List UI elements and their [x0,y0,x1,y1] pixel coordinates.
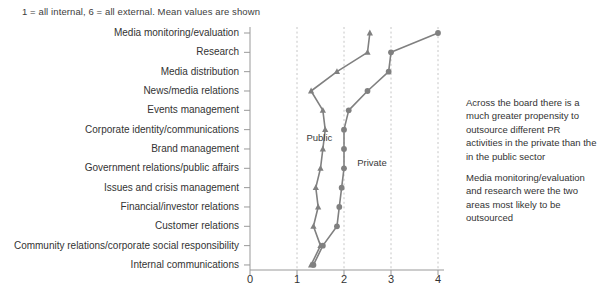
data-point-private [346,107,352,113]
value-axis-tick-label: 3 [388,273,394,285]
data-point-public [317,165,323,171]
data-point-private [386,69,392,75]
value-axis-tick-label: 0 [247,273,253,285]
data-point-public [315,204,321,210]
data-point-public [364,49,370,55]
value-axis-tick-label: 4 [435,273,441,285]
data-point-private [435,30,441,36]
data-point-private [341,165,347,171]
data-point-private [341,127,347,133]
data-point-private [339,185,345,191]
data-point-private [341,146,347,152]
series-annotation-private: Private [357,157,387,168]
data-point-private [336,204,342,210]
side-note-paragraph-1: Across the board there is a much greater… [466,96,598,163]
data-point-public [310,223,316,229]
value-axis-tick-label: 2 [341,273,347,285]
data-point-private [365,88,371,94]
data-point-public [322,126,328,132]
value-axis-tick-label: 1 [294,273,300,285]
data-point-public [367,30,373,36]
data-point-public [313,184,319,190]
data-point-private [388,49,394,55]
series-line-private [313,33,438,265]
side-note-paragraph-2: Media monitoring/evaluation and research… [466,171,598,225]
series-line-public [311,33,370,265]
data-point-public [320,146,326,152]
series-annotation-public: Public [306,132,332,143]
data-point-private [334,223,340,229]
chart-page: 1 = all internal, 6 = all external. Mean… [0,0,605,298]
